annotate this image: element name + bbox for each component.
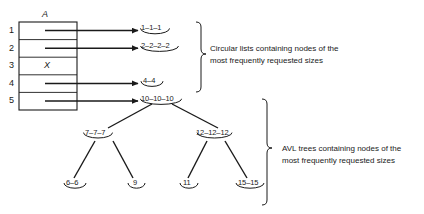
avl-tree-edges [74,104,247,178]
circular-list-label-2: 2–2–2–2 [141,42,170,50]
avl-node-label-12: 12–12–12 [196,129,229,137]
array-name-label: A [42,10,48,19]
edge-left-to-leaf-6 [74,141,95,178]
avl-leaf-label-11: 11 [183,179,191,187]
caption-circular-lists: Circular lists containing nodes of the m… [210,43,339,66]
array-row-index-3: 3 [9,61,14,70]
brace-avl-trees [262,99,272,205]
array-row-index-2: 2 [9,44,14,53]
array-row-index-1: 1 [9,26,14,35]
circular-list-label-1: 1–1–1 [141,24,161,32]
circular-list-label-4: 4–4 [143,77,155,85]
memory-allocator-diagram [0,0,424,214]
edge-root-to-left [108,104,152,128]
avl-leaf-label-6: 6–6 [66,179,78,187]
array-cell-occupied-marker: X [44,61,50,70]
avl-tree-nodes [64,133,264,189]
avl-leaf-label-9: 9 [133,179,137,187]
caption-avl-trees: AVL trees containing nodes of the most f… [282,143,401,166]
array-to-list-pointers [45,31,138,101]
brace-circular-lists [196,22,206,92]
circular-list-label-5: 10–10–10 [141,95,174,103]
circular-list-nodes [141,28,182,104]
edge-left-to-leaf-9 [113,141,133,178]
avl-leaf-label-15: 15–15 [238,179,258,187]
array-row-index-4: 4 [9,79,14,88]
avl-node-label-7: 7–7–7 [85,129,105,137]
array-row-index-5: 5 [9,96,14,105]
edge-right-to-leaf-11 [188,141,207,178]
edge-right-to-leaf-15 [225,141,247,178]
edge-root-to-right [172,104,218,128]
